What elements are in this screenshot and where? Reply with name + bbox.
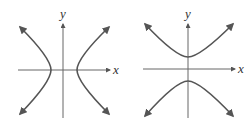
figure-horizontal-hyperbola: x y (18, 6, 119, 118)
y-axis-label: y (183, 6, 191, 21)
lower-branch (145, 81, 233, 116)
figure-vertical-hyperbola: x y (143, 6, 244, 118)
x-axis-label: x (237, 61, 244, 76)
hyperbola-diagrams: x y x y (0, 0, 247, 122)
upper-branch (145, 24, 233, 57)
y-axis-label: y (58, 6, 66, 21)
x-axis-label: x (112, 62, 119, 77)
